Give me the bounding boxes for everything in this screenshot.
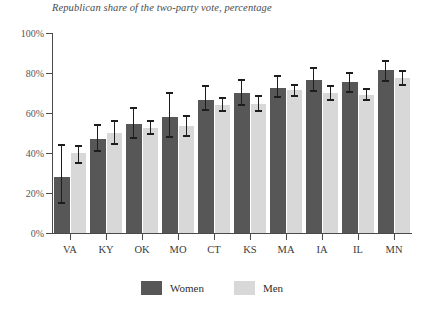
error-bar-cap [238, 104, 245, 105]
error-bar-ia-women [313, 68, 314, 91]
error-bar-cap [399, 84, 406, 85]
bar-mn-women [378, 70, 394, 233]
error-bar-cap [327, 99, 334, 100]
error-bar-ks-women [241, 80, 242, 105]
error-bar-cap [130, 137, 137, 138]
error-bar-cap [382, 60, 389, 61]
chart-legend: WomenMen [0, 281, 424, 295]
x-axis-tick [394, 234, 395, 240]
error-bar-cap [94, 124, 101, 125]
legend-swatch-men [234, 281, 255, 295]
error-bar-cap [274, 96, 281, 97]
error-bar-cap [183, 115, 190, 116]
bar-ma-men [287, 90, 303, 233]
error-bar-cap [346, 91, 353, 92]
error-bar-cap [202, 109, 209, 110]
bar-ct-men [215, 105, 231, 233]
bar-ct-women [198, 100, 214, 233]
y-axis-tick-label: 100% [21, 28, 44, 39]
error-bar-cap [202, 85, 209, 86]
x-axis-label-ma: MA [278, 244, 295, 255]
error-bar-cap [327, 85, 334, 86]
error-bar-cap [130, 107, 137, 108]
error-bar-cap [111, 120, 118, 121]
error-bar-cap [94, 150, 101, 151]
error-bar-ky-women [97, 125, 98, 151]
error-bar-cap [399, 70, 406, 71]
bar-ia-women [306, 80, 322, 233]
x-axis-label-ok: OK [134, 244, 149, 255]
error-bar-il-women [349, 73, 350, 92]
error-bar-mo-women [169, 93, 170, 137]
error-bar-cap [346, 72, 353, 73]
error-bar-cap [147, 120, 154, 121]
plot-area [52, 33, 412, 233]
error-bar-cap [58, 144, 65, 145]
x-axis-label-ks: KS [243, 244, 256, 255]
x-axis-label-mn: MN [386, 244, 403, 255]
legend-item-women: Women [141, 281, 204, 295]
legend-label-women: Women [170, 282, 204, 294]
x-axis-tick [322, 234, 323, 240]
error-bar-va-women [61, 145, 62, 203]
error-bar-cap [363, 88, 370, 89]
bar-mn-men [395, 78, 411, 233]
bar-il-men [359, 95, 375, 233]
bar-ks-men [251, 104, 267, 233]
error-bar-mn-men [402, 71, 403, 85]
error-bar-cap [310, 67, 317, 68]
y-axis-tick-label: 60% [26, 108, 44, 119]
error-bar-cap [75, 162, 82, 163]
error-bar-ia-men [330, 86, 331, 100]
error-bar-cap [111, 143, 118, 144]
error-bar-ct-men [222, 98, 223, 111]
bar-ok-men [143, 128, 159, 233]
bar-va-men [71, 153, 87, 233]
error-bar-ct-women [205, 86, 206, 110]
error-bar-cap [219, 97, 226, 98]
error-bar-cap [219, 110, 226, 111]
error-bar-ky-men [114, 121, 115, 144]
x-axis-label-ct: CT [207, 244, 220, 255]
error-bar-cap [310, 90, 317, 91]
error-bar-mn-women [385, 61, 386, 81]
bar-ma-women [270, 88, 286, 233]
x-axis-tick [358, 234, 359, 240]
x-axis-label-ky: KY [98, 244, 113, 255]
error-bar-ok-women [133, 108, 134, 138]
error-bar-cap [255, 95, 262, 96]
bar-ia-men [323, 93, 339, 233]
bar-ky-men [107, 133, 123, 233]
x-axis-label-ia: IA [316, 244, 327, 255]
legend-label-men: Men [263, 282, 283, 294]
x-axis-tick [214, 234, 215, 240]
y-axis-tick-label: 40% [26, 148, 44, 159]
x-axis-tick [250, 234, 251, 240]
error-bar-cap [166, 92, 173, 93]
y-axis-tick [46, 233, 52, 234]
bar-il-women [342, 82, 358, 233]
error-bar-cap [382, 80, 389, 81]
x-axis-label-il: IL [353, 244, 363, 255]
error-bar-cap [363, 99, 370, 100]
error-bar-cap [291, 84, 298, 85]
error-bar-ks-men [258, 96, 259, 111]
error-bar-ma-women [277, 76, 278, 97]
error-bar-ok-men [150, 121, 151, 134]
error-bar-cap [238, 79, 245, 80]
bar-ok-women [126, 124, 142, 233]
chart-title: Republican share of the two-party vote, … [52, 2, 272, 13]
error-bar-cap [75, 145, 82, 146]
x-axis-tick [178, 234, 179, 240]
x-axis-tick [70, 234, 71, 240]
x-axis-tick [106, 234, 107, 240]
error-bar-cap [274, 75, 281, 76]
x-axis-label-va: VA [63, 244, 77, 255]
bar-mo-men [179, 126, 195, 233]
bar-ks-women [234, 93, 250, 233]
x-axis-label-mo: MO [170, 244, 187, 255]
x-axis-tick [142, 234, 143, 240]
y-axis-tick-label: 0% [31, 228, 44, 239]
bar-ky-women [90, 139, 106, 233]
error-bar-mo-men [186, 116, 187, 136]
